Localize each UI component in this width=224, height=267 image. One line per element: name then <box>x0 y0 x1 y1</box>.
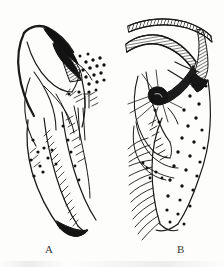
figure-b-drawing <box>0 0 224 267</box>
figure-label-a: A <box>45 243 53 255</box>
figure-label-b: B <box>177 243 185 255</box>
illustration-plate: A B <box>0 0 224 267</box>
scan-artifact <box>0 261 224 267</box>
